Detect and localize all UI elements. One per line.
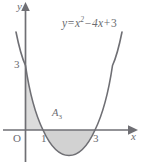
equation-plus: + [103, 17, 111, 29]
equation-term3: 3 [111, 17, 117, 29]
equation-minus: − [84, 17, 92, 29]
equation-label: y=x2−4x+3 [62, 16, 117, 29]
y-tick-label-3: 3 [14, 59, 20, 70]
graph-figure: y=x2−4x+3 y x 3 O 1 3 A3 [0, 0, 145, 166]
y-axis-arrowhead [21, 2, 30, 11]
y-axis-label: y [17, 1, 22, 12]
area-region-subscript: 3 [58, 113, 62, 121]
equation-equals: = [67, 17, 75, 29]
area-region-label: A3 [52, 108, 62, 121]
origin-label: O [13, 133, 21, 144]
x-axis-label: x [131, 131, 136, 142]
shaded-region-above-axis [26, 66, 44, 131]
equation-term2: 4x [92, 17, 103, 29]
x-tick-label-1: 1 [41, 133, 47, 144]
x-tick-label-3: 3 [93, 133, 99, 144]
